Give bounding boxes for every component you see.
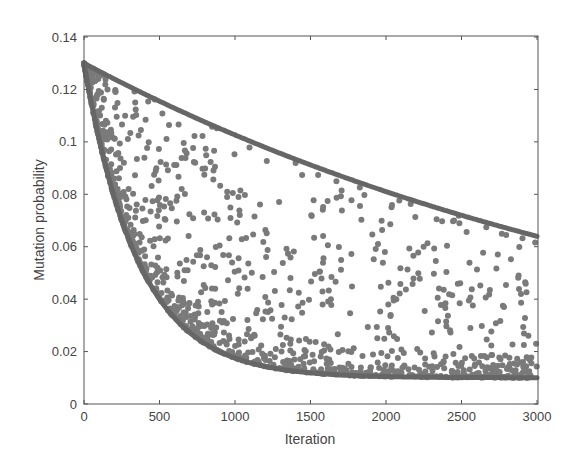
data-point	[115, 100, 121, 106]
data-point	[388, 312, 394, 318]
data-point	[174, 270, 180, 276]
data-point	[276, 199, 282, 205]
data-point	[443, 319, 449, 325]
data-point	[348, 251, 354, 257]
data-point	[244, 317, 250, 323]
data-point	[115, 150, 121, 156]
data-point	[138, 127, 144, 133]
data-point	[210, 177, 216, 183]
data-point	[200, 133, 206, 139]
scatter-chart: 050010001500200025003000 00.020.040.060.…	[0, 0, 577, 466]
data-point	[308, 278, 314, 284]
data-point	[422, 369, 428, 375]
data-point	[338, 257, 344, 263]
data-point	[307, 360, 313, 366]
data-point	[469, 286, 475, 292]
data-point	[528, 360, 534, 366]
data-point	[520, 324, 526, 330]
data-point	[247, 145, 253, 151]
data-point	[219, 309, 225, 315]
data-point	[106, 148, 112, 154]
data-point	[208, 298, 214, 304]
data-point	[328, 302, 334, 308]
data-point	[464, 229, 470, 235]
data-point	[263, 357, 269, 363]
data-point	[264, 158, 270, 164]
data-point	[127, 130, 133, 136]
data-point	[516, 244, 522, 250]
data-point	[303, 336, 309, 342]
data-point	[325, 198, 331, 204]
data-point	[164, 287, 170, 293]
data-point	[385, 353, 391, 359]
data-point	[378, 350, 384, 356]
data-point	[342, 366, 348, 372]
data-point	[227, 336, 233, 342]
data-point	[320, 233, 326, 239]
data-point	[406, 246, 412, 252]
data-point	[165, 167, 171, 173]
data-point	[288, 337, 294, 343]
data-point	[370, 352, 376, 358]
data-point	[156, 207, 162, 213]
data-point	[311, 235, 317, 241]
data-point	[99, 105, 105, 111]
data-point	[119, 122, 125, 128]
data-point	[292, 357, 298, 363]
data-point	[348, 349, 354, 355]
data-point	[435, 295, 441, 301]
data-point	[253, 310, 259, 316]
data-point	[229, 260, 235, 266]
data-point	[287, 287, 293, 293]
data-point	[230, 316, 236, 322]
data-point	[217, 340, 223, 346]
data-point	[448, 329, 454, 335]
data-point	[415, 250, 421, 256]
data-point	[498, 356, 504, 362]
data-point	[260, 316, 266, 322]
data-point	[260, 274, 266, 280]
data-point	[315, 172, 321, 178]
data-point	[175, 298, 181, 304]
data-point	[156, 177, 162, 183]
data-point	[202, 166, 208, 172]
data-point	[157, 235, 163, 241]
data-point	[237, 212, 243, 218]
data-point	[161, 272, 167, 278]
data-point	[245, 286, 251, 292]
data-point	[306, 297, 312, 303]
data-point	[169, 205, 175, 211]
data-point	[506, 364, 512, 370]
data-point	[102, 82, 108, 88]
data-point	[360, 353, 366, 359]
data-point	[457, 344, 463, 350]
data-point	[160, 280, 166, 286]
y-tick-label: 0	[70, 397, 77, 412]
data-point	[163, 266, 169, 272]
data-point	[339, 188, 345, 194]
data-point	[282, 315, 288, 321]
data-point	[236, 255, 242, 261]
data-point	[155, 254, 161, 260]
data-point	[302, 347, 308, 353]
data-point	[412, 214, 418, 220]
data-point	[153, 165, 159, 171]
data-point	[467, 260, 473, 266]
y-axis-label: Mutation probability	[31, 159, 47, 280]
data-point	[103, 129, 109, 135]
data-point	[250, 349, 256, 355]
data-point	[190, 145, 196, 151]
data-point	[502, 352, 508, 358]
data-point	[203, 146, 209, 152]
data-point	[127, 205, 133, 211]
data-point	[524, 354, 530, 360]
x-tick-label: 0	[80, 409, 87, 424]
data-point	[221, 329, 227, 335]
data-point	[459, 360, 465, 366]
data-point	[399, 365, 405, 371]
data-point	[234, 220, 240, 226]
data-point	[450, 351, 456, 357]
data-point	[198, 323, 204, 329]
data-point	[141, 155, 147, 161]
y-tick-label: 0.02	[52, 344, 77, 359]
